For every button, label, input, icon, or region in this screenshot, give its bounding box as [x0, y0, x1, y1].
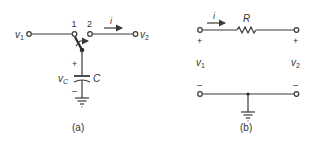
node-1	[72, 32, 77, 37]
current-label-b: i	[213, 11, 216, 21]
minus-left-b: –	[197, 80, 202, 90]
plus-right-b: +	[293, 36, 298, 46]
v2-label-a: v2	[140, 29, 149, 41]
v2-label-b: v2	[291, 57, 300, 69]
vc-label: vC	[58, 73, 69, 85]
minus-right-b: –	[293, 80, 298, 90]
vc-minus: –	[72, 86, 77, 96]
v1-terminal-a	[27, 32, 32, 37]
node-2	[88, 32, 93, 37]
resistor-label: R	[243, 13, 250, 24]
vc-plus: +	[72, 59, 77, 69]
v2-minus-terminal-b	[294, 92, 299, 97]
node-2-label: 2	[87, 19, 92, 29]
circuit-figure: v1 1 2 v2 i + vC C –	[0, 0, 311, 143]
current-label-a: i	[110, 16, 113, 26]
capacitor-label: C	[93, 73, 101, 84]
node-1-label: 1	[72, 19, 77, 29]
v1-plus-terminal-b	[198, 28, 203, 33]
figure-b: R i + + v1 v2 – – (b)	[196, 11, 300, 133]
ground-icon-b	[241, 112, 255, 121]
caption-a: (a)	[72, 122, 84, 133]
figure-a: v1 1 2 v2 i + vC C –	[15, 16, 149, 133]
v1-minus-terminal-b	[198, 92, 203, 97]
v2-terminal-a	[133, 32, 138, 37]
ground-icon-a	[75, 98, 89, 107]
v1-label-b: v1	[196, 57, 205, 69]
v1-label-a: v1	[15, 29, 24, 41]
v2-plus-terminal-b	[294, 28, 299, 33]
plus-left-b: +	[197, 36, 202, 46]
caption-b: (b)	[240, 122, 252, 133]
resistor-icon	[237, 27, 256, 33]
